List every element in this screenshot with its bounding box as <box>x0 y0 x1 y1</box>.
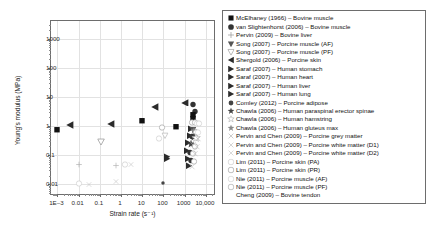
x-tick-minor <box>174 194 175 196</box>
legend-item[interactable]: Chawla (2006) – Human hamstring <box>225 115 422 123</box>
legend-marker-icon <box>225 158 236 166</box>
data-point <box>85 174 92 192</box>
y-tick-minor <box>49 131 51 132</box>
legend-item-label: Saraf (2007) – Human heart <box>236 73 313 81</box>
legend-marker-icon <box>225 132 236 140</box>
y-tick-label: 0.1 <box>46 151 55 158</box>
y-tick-label: 100 <box>46 63 56 70</box>
legend-marker-icon <box>225 31 236 39</box>
legend-item[interactable]: Saraf (2007) – Human heart <box>225 73 422 81</box>
legend-item[interactable]: Pervin and Chen (2009) – Porcine white m… <box>225 141 422 149</box>
y-tick-minor <box>49 83 51 84</box>
legend-item[interactable]: Shergold (2006) – Porcine skin <box>225 56 422 64</box>
x-tick-minor <box>191 194 192 196</box>
legend-item[interactable]: van Slightenhorst (2006) – Bovine muscle <box>225 22 422 30</box>
legend-item-label: Song (2007) – Porcine muscle (AF) <box>236 40 333 48</box>
legend-item[interactable]: Saraf (2007) – Human stomach <box>225 65 422 73</box>
legend-item[interactable]: Song (2007) – Porcine muscle (AF) <box>225 39 422 47</box>
gridline-vertical <box>163 21 164 194</box>
y-tick-minor <box>49 88 51 89</box>
data-point <box>75 154 82 172</box>
legend-item-label: Pervin (2009) – Bovine liver <box>236 31 312 39</box>
x-tick-minor <box>78 194 79 196</box>
y-tick-minor <box>49 112 51 113</box>
legend-item-label: van Slightenhorst (2006) – Bovine muscle <box>236 23 351 31</box>
legend-item-label: Chawla (2006) – Human hamstring <box>236 115 332 123</box>
legend-marker-icon <box>225 191 236 199</box>
data-point <box>75 173 82 191</box>
legend-item[interactable]: Cheng (2009) – Bovine tendon <box>225 191 422 199</box>
x-tick-label: 10 <box>138 199 145 206</box>
legend-item[interactable]: Song (2007) – Porcine muscle (PF) <box>225 48 422 56</box>
x-tick-label: 1E–3 <box>49 199 63 206</box>
data-point <box>181 92 189 110</box>
legend-marker-icon <box>225 115 236 123</box>
x-tick <box>185 194 186 197</box>
x-tick-minor <box>70 194 71 196</box>
x-tick-minor <box>155 194 156 196</box>
y-tick-minor <box>49 50 51 51</box>
y-tick-label: 1 <box>46 122 49 129</box>
legend-item[interactable]: Saraf (2007) – Human lung <box>225 90 422 98</box>
legend-item[interactable]: Pervin (2009) – Bovine liver <box>225 31 422 39</box>
y-tick-minor <box>49 135 51 136</box>
y-tick-minor <box>49 74 51 75</box>
legend-marker-icon <box>225 65 236 73</box>
x-tick-label: 0.01 <box>72 199 84 206</box>
legend-item[interactable]: Chawla (2006) – Human paraspinal erector… <box>225 107 422 115</box>
plot-area <box>50 20 215 195</box>
legend-item[interactable]: Chawla (2006) – Human gluteus max <box>225 124 422 132</box>
legend-item-label: Saraf (2007) – Human stomach <box>236 65 322 73</box>
y-tick-minor <box>49 189 51 190</box>
legend-item-label: Comley (2012) – Porcine adipose <box>236 99 328 107</box>
y-tick-minor <box>49 162 51 163</box>
x-tick <box>206 194 207 197</box>
legend-item[interactable]: Pervin and Chen (2009) – Porcine white m… <box>225 149 422 157</box>
legend-marker-icon <box>225 82 236 90</box>
y-tick-minor <box>49 79 51 80</box>
legend-item[interactable]: Saraf (2007) – Human liver <box>225 82 422 90</box>
x-tick-minor <box>176 194 177 196</box>
legend-item[interactable]: Lim (2011) – Porcine skin (PR) <box>225 166 422 174</box>
legend-item[interactable]: Nie (2011) – Porcine muscle (AF) <box>225 174 422 182</box>
data-point <box>107 114 115 132</box>
legend-item-label: Saraf (2007) – Human liver <box>236 82 310 90</box>
x-tick <box>142 194 143 197</box>
plot-wrapper: Strain rate (s⁻¹) Young's modulus (MPa) … <box>0 0 218 241</box>
y-tick-minor <box>49 133 51 134</box>
y-tick-minor <box>49 45 51 46</box>
x-tick-minor <box>56 194 57 196</box>
legend-marker-icon <box>225 73 236 81</box>
y-tick-minor <box>49 170 51 171</box>
y-tick-minor <box>49 164 51 165</box>
legend-marker-icon <box>225 99 236 107</box>
gridline-horizontal <box>51 68 214 69</box>
x-tick <box>79 194 80 197</box>
x-tick <box>57 194 58 197</box>
legend-item[interactable]: Lim (2011) – Porcine skin (PA) <box>225 157 422 165</box>
x-tick-minor <box>110 194 111 196</box>
x-tick <box>100 194 101 197</box>
gridline-vertical <box>142 21 143 194</box>
legend-item-label: Chawla (2006) – Human gluteus max <box>236 124 338 132</box>
y-tick-minor <box>49 138 51 139</box>
legend-marker-icon <box>225 23 236 31</box>
x-tick-label: 10,000 <box>195 199 214 206</box>
legend-item[interactable]: Nie (2011) – Porcine muscle (PF) <box>225 183 422 191</box>
y-tick-minor <box>49 47 51 48</box>
legend-marker-icon <box>225 48 236 56</box>
legend-item[interactable]: Comley (2012) – Porcine adipose <box>225 98 422 106</box>
data-point <box>160 173 166 191</box>
y-tick-minor <box>49 72 51 73</box>
legend-item[interactable]: McElhaney (1966) – Bovine muscle <box>225 14 422 22</box>
legend-item[interactable]: Pervin and Chen (2009) – Porcine grey ma… <box>225 132 422 140</box>
data-point <box>163 148 170 166</box>
legend-item-label: McElhaney (1966) – Bovine muscle <box>236 14 333 22</box>
y-tick-minor <box>49 77 51 78</box>
x-tick-minor <box>85 194 86 196</box>
x-tick-minor <box>195 194 196 196</box>
x-tick-minor <box>162 194 163 196</box>
legend-marker-icon <box>225 56 236 64</box>
y-tick-minor <box>49 191 51 192</box>
y-tick-minor <box>49 193 51 194</box>
